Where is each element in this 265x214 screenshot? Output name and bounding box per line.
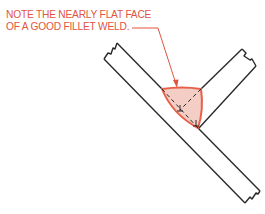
break-line-bottom [245,191,260,203]
branch-plate [199,49,256,128]
break-line-top [104,43,117,59]
fillet-weld [162,88,202,129]
leader-arrow [132,28,179,88]
main-plate [104,43,260,203]
break-line-branch [242,49,256,66]
weld-diagram [0,0,265,214]
